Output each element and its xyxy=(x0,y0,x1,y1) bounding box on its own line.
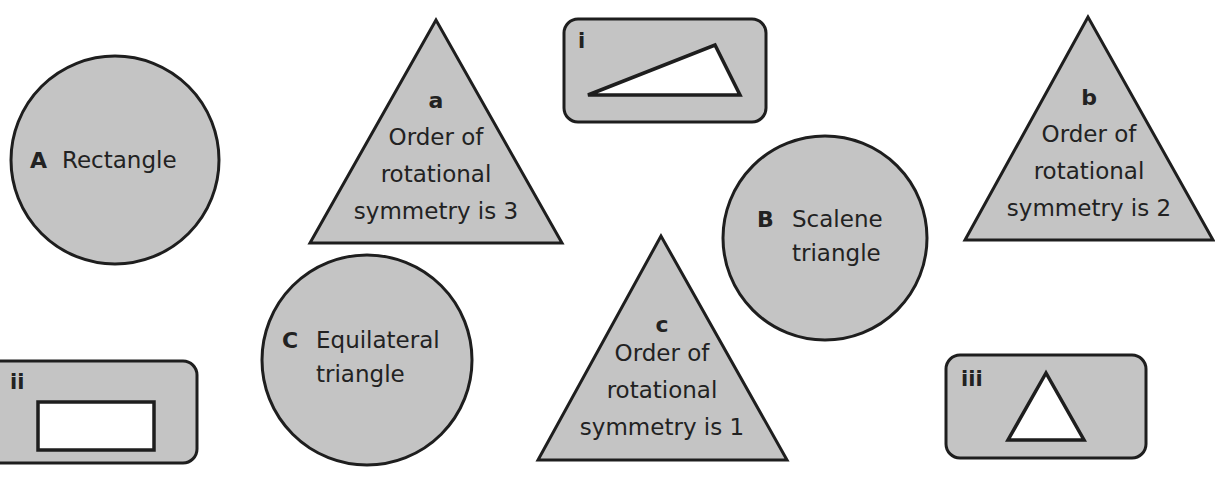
circle-c[interactable]: C Equilateral triangle xyxy=(262,255,472,465)
card-label: ii xyxy=(10,370,24,394)
circle-label-line-2: triangle xyxy=(316,361,405,387)
circle-label-line-2: triangle xyxy=(792,240,881,266)
triangle-line-3: symmetry is 1 xyxy=(580,414,744,440)
circle-key: C xyxy=(282,328,298,353)
triangle-key: c xyxy=(655,312,668,337)
triangle-line-1: Order of xyxy=(389,124,485,150)
triangle-line-1: Order of xyxy=(1042,121,1138,147)
triangle-key: a xyxy=(429,88,444,113)
circle-label-line-1: Equilateral xyxy=(316,327,440,353)
card-label: i xyxy=(578,29,585,53)
card-ii[interactable]: ii xyxy=(0,361,197,463)
card-i[interactable]: i xyxy=(564,19,766,122)
card-iii[interactable]: iii xyxy=(946,355,1146,458)
circle-key: A xyxy=(30,148,47,173)
circle-label-line-1: Scalene xyxy=(792,206,883,232)
triangle-line-2: rotational xyxy=(607,377,718,403)
circle-shape xyxy=(262,255,472,465)
triangle-line-2: rotational xyxy=(381,161,492,187)
triangle-a[interactable]: a Order of rotational symmetry is 3 xyxy=(310,20,562,243)
circle-label: Rectangle xyxy=(62,147,177,173)
circle-key: B xyxy=(757,207,774,232)
triangle-line-2: rotational xyxy=(1034,158,1145,184)
triangle-line-3: symmetry is 2 xyxy=(1007,195,1171,221)
card-label: iii xyxy=(961,367,983,391)
triangle-line-3: symmetry is 3 xyxy=(354,198,518,224)
triangle-line-1: Order of xyxy=(615,340,711,366)
triangle-key: b xyxy=(1081,85,1097,110)
circle-a[interactable]: A Rectangle xyxy=(11,56,219,264)
triangle-b[interactable]: b Order of rotational symmetry is 2 xyxy=(965,17,1213,240)
rectangle-icon xyxy=(38,402,154,450)
circle-b[interactable]: B Scalene triangle xyxy=(723,136,927,340)
circle-shape xyxy=(723,136,927,340)
matching-diagram: A Rectangle a Order of rotational symmet… xyxy=(0,0,1215,480)
